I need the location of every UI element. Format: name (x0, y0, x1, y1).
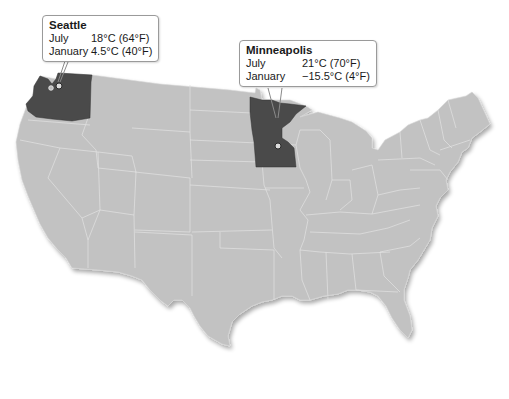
temperature-value: 18°C (64°F) (91, 32, 149, 45)
seattle-callout: Seattle July 18°C (64°F) January 4.5°C (… (42, 15, 159, 62)
temperature-value: −15.5°C (4°F) (302, 70, 370, 83)
month-label: July (49, 32, 91, 45)
callout-row-july: July 21°C (70°F) (246, 57, 370, 70)
temperature-value: 4.5°C (40°F) (91, 45, 152, 58)
minneapolis-callout: Minneapolis July 21°C (70°F) January −15… (239, 40, 377, 87)
month-label: January (49, 45, 91, 58)
callout-row-july: July 18°C (64°F) (49, 32, 152, 45)
month-label: January (246, 70, 302, 83)
callout-city-name: Seattle (49, 19, 152, 32)
callout-city-name: Minneapolis (246, 44, 370, 57)
month-label: July (246, 57, 302, 70)
callout-row-january: January 4.5°C (40°F) (49, 45, 152, 58)
temperature-value: 21°C (70°F) (302, 57, 360, 70)
minneapolis-marker[interactable] (275, 143, 281, 149)
callout-row-january: January −15.5°C (4°F) (246, 70, 370, 83)
